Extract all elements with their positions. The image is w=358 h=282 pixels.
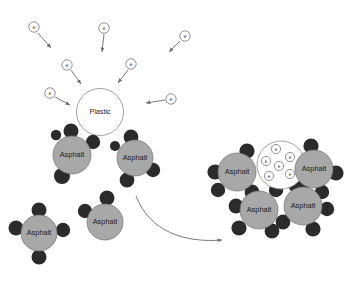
- asphalt-satellite-dot: [110, 141, 120, 151]
- asphalt-particle: Asphalt: [295, 150, 333, 188]
- electron-ring: [285, 152, 294, 161]
- stage-after-group: eeeeeeAsphaltAsphaltAsphaltAsphalt: [207, 138, 343, 238]
- free-electron-icon: e: [126, 59, 136, 69]
- asphalt-core: [218, 153, 256, 191]
- electron-ring: [180, 31, 190, 41]
- electron-ring: [62, 60, 72, 70]
- asphalt-core: [21, 215, 57, 251]
- electron-ring: [99, 23, 109, 33]
- electron-attraction-arrow: [146, 100, 165, 103]
- asphalt-satellite-dot: [51, 130, 61, 140]
- trapped-electron-icon: e: [271, 144, 280, 153]
- electron-attraction-arrow: [55, 97, 70, 105]
- asphalt-satellite-dot: [56, 223, 70, 237]
- diagram-canvas: PlasticeeeeeeeAsphaltAsphaltAsphaltAspha…: [0, 0, 358, 282]
- free-electron-icon: e: [166, 94, 176, 104]
- electron-ring: [29, 22, 39, 32]
- asphalt-particle: Asphalt: [218, 153, 256, 191]
- free-electron-icon: e: [45, 88, 55, 98]
- plastic-particle: Plastic: [77, 89, 124, 136]
- asphalt-particle: Asphalt: [240, 191, 278, 229]
- asphalt-core: [53, 136, 91, 174]
- asphalt-core: [284, 187, 322, 225]
- electron-attraction-arrow: [102, 34, 104, 52]
- electron-ring: [126, 59, 136, 69]
- trapped-electron-icon: e: [285, 169, 294, 178]
- asphalt-core: [295, 150, 333, 188]
- plastic-core: [77, 89, 124, 136]
- trapped-electron-icon: e: [261, 156, 270, 165]
- electron-ring: [166, 94, 176, 104]
- asphalt-satellite-dot: [100, 191, 115, 206]
- asphalt-particle: Asphalt: [9, 203, 71, 265]
- electron-attraction-arrow: [38, 33, 51, 48]
- asphalt-particle: Asphalt: [284, 187, 322, 225]
- asphalt-plastic-electron-diagram: PlasticeeeeeeeAsphaltAsphaltAsphaltAspha…: [0, 0, 358, 282]
- trapped-electron-icon: e: [274, 161, 283, 170]
- electron-attraction-arrow: [169, 41, 180, 52]
- free-electron-icon: e: [62, 60, 72, 70]
- electron-attraction-arrow: [118, 70, 128, 83]
- process-arrow-group: [136, 196, 222, 240]
- asphalt-core: [240, 191, 278, 229]
- trapped-electron-icon: e: [264, 171, 273, 180]
- electron-ring: [271, 144, 280, 153]
- asphalt-satellite-dot: [231, 220, 246, 235]
- free-electron-icon: e: [99, 23, 109, 33]
- trapped-electron-icon: e: [285, 152, 294, 161]
- asphalt-particle: Asphalt: [110, 130, 160, 188]
- electron-ring: [45, 88, 55, 98]
- free-electron-icon: e: [29, 22, 39, 32]
- electron-ring: [261, 156, 270, 165]
- asphalt-core: [87, 204, 123, 240]
- electron-ring: [264, 171, 273, 180]
- asphalt-core: [117, 140, 153, 176]
- asphalt-satellite-dot: [32, 250, 47, 265]
- electron-attraction-arrow: [71, 70, 81, 84]
- electron-ring: [274, 161, 283, 170]
- electron-ring: [285, 169, 294, 178]
- asphalt-particle: Asphalt: [78, 191, 123, 241]
- transition-arrow: [136, 196, 222, 240]
- stage-before-group: PlasticeeeeeeeAsphaltAsphaltAsphaltAspha…: [9, 22, 191, 265]
- free-electron-icon: e: [180, 31, 190, 41]
